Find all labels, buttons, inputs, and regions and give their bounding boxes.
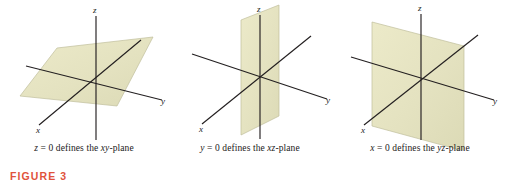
- xz-plane-caption: y = 0 defines the xz-plane: [166, 143, 334, 153]
- caption-suffix-text: -plane: [275, 143, 299, 153]
- xy-plane-panel: z y x z = 0 defines the xy-plane: [0, 0, 168, 170]
- caption-suffix-text: -plane: [109, 143, 133, 153]
- z-axis-label: z: [256, 4, 261, 14]
- x-axis-label: x: [198, 124, 203, 134]
- y-axis-label: y: [325, 95, 330, 105]
- xz-plane-panel: z y x y = 0 defines the xz-plane: [166, 0, 334, 170]
- yz-plane-caption: x = 0 defines the yz-plane: [336, 143, 504, 153]
- x-axis-label: x: [35, 125, 40, 135]
- y-axis-label: y: [492, 96, 497, 106]
- xy-plane-caption: z = 0 defines the xy-plane: [0, 143, 168, 153]
- xy-plane-diagram: z y x: [0, 0, 168, 150]
- caption-mid-text: = 0 defines the: [205, 143, 268, 153]
- z-axis-label: z: [417, 3, 422, 13]
- caption-mid-text: = 0 defines the: [375, 143, 438, 153]
- z-axis-label: z: [92, 5, 97, 15]
- y-axis-label: y: [160, 96, 165, 106]
- xz-plane-diagram: z y x: [166, 0, 334, 150]
- caption-suffix-text: -plane: [445, 143, 469, 153]
- yz-plane-surface: [372, 22, 464, 150]
- figure-3-illustration: z y x z = 0 defines the xy-plane: [0, 0, 506, 191]
- x-axis-label: x: [360, 125, 365, 135]
- figure-number-label: FIGURE 3: [10, 170, 67, 182]
- yz-plane-diagram: z y x: [336, 0, 506, 150]
- caption-mid-text: = 0 defines the: [38, 143, 101, 153]
- yz-plane-panel: z y x x = 0 defines the yz-plane: [336, 0, 504, 170]
